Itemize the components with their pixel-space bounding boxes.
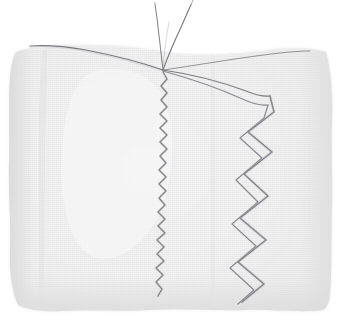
fabric-right-shadow: [300, 44, 334, 314]
fabric-bottom-shadow: [8, 278, 334, 314]
fabric-left-shadow: [8, 44, 34, 314]
fabric-stitch-photo: Fabric swatch with zigzag machine stitch…: [0, 0, 341, 320]
fabric-canvas: [0, 0, 341, 320]
fabric-fold-crease-b: [212, 52, 214, 306]
